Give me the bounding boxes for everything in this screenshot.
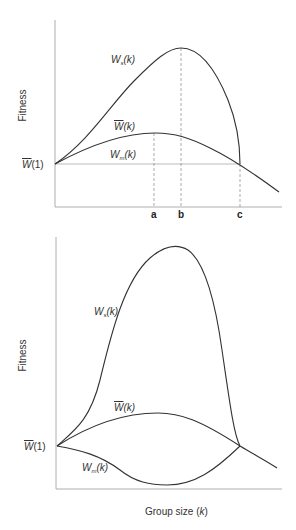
top-y-axis-label: Fitness [17, 89, 28, 121]
tick-a: a [151, 209, 157, 220]
bottom-origin-label: W(1) [24, 442, 46, 452]
bottom-x-axis-label: Group size (k) [145, 507, 208, 517]
bottom-ws-curve [57, 246, 240, 446]
bottom-wbar-label: W(k) [114, 403, 135, 413]
top-chart [55, 20, 282, 207]
top-ws-label: Ws(k) [111, 55, 135, 66]
bottom-y-axis-label: Fitness [17, 339, 28, 371]
bottom-wbar-curve [57, 413, 277, 468]
top-wm-label: Wm(k) [110, 150, 136, 161]
tick-b: b [178, 209, 184, 220]
top-ws-curve [55, 48, 240, 164]
top-wbar-curve [55, 133, 279, 192]
top-origin-label: W(1) [22, 160, 44, 170]
bottom-chart [56, 237, 282, 489]
tick-c: c [237, 209, 243, 220]
bottom-wm-label: Wm(k) [82, 463, 108, 474]
top-wbar-label: W(k) [114, 122, 135, 132]
bottom-ws-label: Ws(k) [94, 307, 118, 318]
